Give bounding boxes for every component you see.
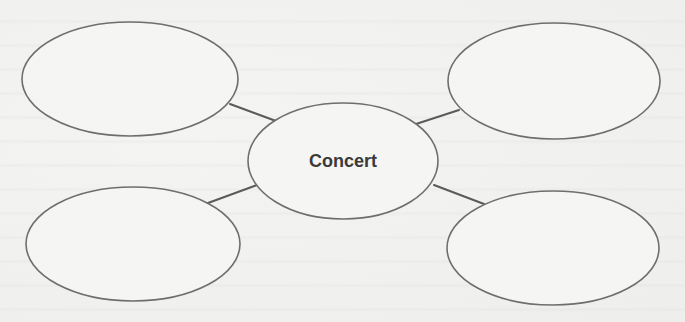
satellite-ellipse-bottom-right[interactable] bbox=[447, 191, 659, 305]
concept-web-canvas: Concert bbox=[0, 0, 685, 322]
connector-bottom-left bbox=[208, 185, 257, 203]
satellite-ellipse-top-left[interactable] bbox=[22, 22, 238, 136]
satellite-node-bottom-left[interactable] bbox=[26, 187, 240, 301]
satellite-node-top-right[interactable] bbox=[448, 23, 660, 139]
center-node: Concert bbox=[248, 103, 438, 219]
connector-bottom-right bbox=[434, 185, 484, 204]
center-label: Concert bbox=[309, 151, 377, 171]
concept-web-diagram: Concert bbox=[0, 0, 685, 322]
connector-top-left bbox=[230, 104, 276, 121]
satellite-ellipse-bottom-left[interactable] bbox=[26, 187, 240, 301]
satellite-ellipse-top-right[interactable] bbox=[448, 23, 660, 139]
connector-top-right bbox=[416, 110, 459, 124]
satellite-node-top-left[interactable] bbox=[22, 22, 238, 136]
satellite-node-bottom-right[interactable] bbox=[447, 191, 659, 305]
